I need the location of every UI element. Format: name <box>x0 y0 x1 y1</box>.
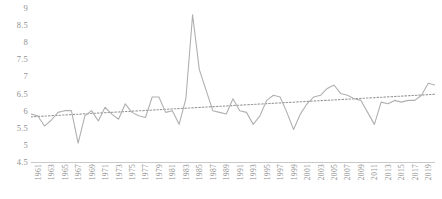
y-tick-label: 7 <box>24 71 28 81</box>
x-tick-label: 1995 <box>262 164 271 180</box>
x-tick-label: 1961 <box>33 164 42 180</box>
x-tick-label: 2015 <box>397 164 406 180</box>
y-tick-label: 5.5 <box>17 123 28 133</box>
x-tick-label: 2005 <box>330 164 339 180</box>
x-tick-label: 1975 <box>128 164 137 180</box>
x-axis-line <box>31 162 435 163</box>
trendline-series <box>31 94 435 117</box>
plot-area <box>31 8 435 162</box>
x-tick-label: 2001 <box>303 164 312 180</box>
x-tick-label: 1979 <box>154 164 163 180</box>
y-tick-label: 8 <box>24 37 28 47</box>
x-tick-label: 1993 <box>249 164 258 180</box>
y-tick-label: 4.5 <box>17 157 28 167</box>
y-tick-label: 8.5 <box>17 20 28 30</box>
x-tick-label: 2017 <box>410 164 419 180</box>
x-tick-label: 1969 <box>87 164 96 180</box>
x-tick-label: 1989 <box>222 164 231 180</box>
x-tick-label: 1997 <box>276 164 285 180</box>
x-tick-label: 1991 <box>235 164 244 180</box>
x-tick-label: 1999 <box>289 164 298 180</box>
y-tick-label: 6 <box>24 106 28 116</box>
value-series-line <box>31 15 435 143</box>
x-tick-label: 2011 <box>370 164 379 180</box>
x-tick-label: 2007 <box>343 164 352 180</box>
x-axis: 1961196319651967196919711973197519771979… <box>31 164 435 199</box>
x-tick-label: 1983 <box>181 164 190 180</box>
x-tick-label: 1963 <box>47 164 56 180</box>
line-chart: 4.555.566.577.588.59 1961196319651967196… <box>0 0 442 199</box>
x-tick-label: 1977 <box>141 164 150 180</box>
y-axis: 4.555.566.577.588.59 <box>0 0 30 199</box>
x-tick-label: 1987 <box>208 164 217 180</box>
x-tick-label: 2009 <box>356 164 365 180</box>
y-tick-label: 9 <box>24 3 28 13</box>
x-tick-label: 1973 <box>114 164 123 180</box>
x-tick-label: 1971 <box>101 164 110 180</box>
plot-svg <box>31 8 435 162</box>
y-tick-label: 7.5 <box>17 54 28 64</box>
x-tick-label: 1985 <box>195 164 204 180</box>
x-tick-label: 2013 <box>383 164 392 180</box>
x-tick-label: 2003 <box>316 164 325 180</box>
x-tick-label: 1967 <box>74 164 83 180</box>
x-tick-label: 2019 <box>424 164 433 180</box>
y-tick-label: 6.5 <box>17 89 28 99</box>
x-tick-label: 1965 <box>60 164 69 180</box>
y-tick-label: 5 <box>24 140 28 150</box>
x-tick-label: 1981 <box>168 164 177 180</box>
